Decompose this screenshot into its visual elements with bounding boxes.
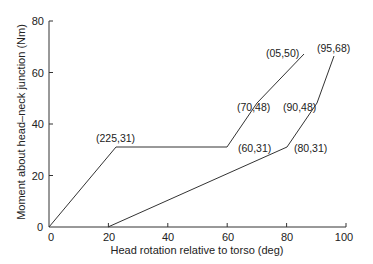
x-tick-label: 40 bbox=[162, 231, 174, 243]
y-tick-label: 40 bbox=[32, 118, 44, 130]
y-axis-title: Moment about head–neck junction (Nm) bbox=[15, 24, 27, 220]
annotation-label: (95,68) bbox=[317, 42, 350, 54]
x-tick-label: 60 bbox=[222, 231, 234, 243]
annotation-label: (05,50) bbox=[266, 47, 299, 59]
annotation-label: (90,48) bbox=[283, 101, 316, 113]
series-curve-1 bbox=[49, 54, 304, 227]
annotation-label: (70,48) bbox=[237, 101, 270, 113]
x-axis-title: Head rotation relative to torso (deg) bbox=[110, 244, 283, 256]
y-tick-label: 20 bbox=[32, 170, 44, 182]
annotation-label: (225,31) bbox=[96, 132, 135, 144]
y-tick-label: 60 bbox=[32, 67, 44, 79]
y-tick-label: 0 bbox=[37, 221, 43, 233]
annotation-label: (60,31) bbox=[238, 142, 271, 154]
y-tick-label: 80 bbox=[32, 15, 44, 27]
x-tick-label: 20 bbox=[103, 231, 115, 243]
x-tick-label: 0 bbox=[48, 231, 54, 243]
x-tick-label: 100 bbox=[335, 231, 353, 243]
chart: 80 60 40 20 0 0 20 40 60 80 100 Head rot… bbox=[0, 0, 373, 264]
x-tick-label: 80 bbox=[281, 231, 293, 243]
annotation-label: (80,31) bbox=[294, 142, 327, 154]
